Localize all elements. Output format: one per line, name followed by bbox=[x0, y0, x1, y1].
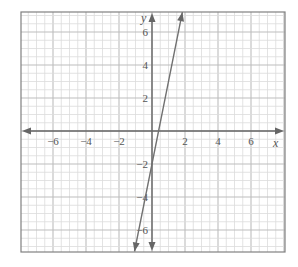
x-axis-arrow-right-icon bbox=[275, 128, 284, 135]
y-axis-label: y bbox=[140, 11, 147, 25]
series-line bbox=[135, 12, 183, 251]
y-tick-label: 6 bbox=[143, 26, 149, 38]
y-tick-label: 4 bbox=[143, 59, 149, 71]
y-tick-label: −2 bbox=[136, 158, 148, 170]
plot-frame bbox=[21, 12, 285, 252]
coordinate-plane: −6−4−2246−6−4−2246 x y bbox=[0, 0, 298, 267]
grid bbox=[21, 12, 285, 252]
x-axis-arrow-left-icon bbox=[22, 128, 31, 135]
y-tick-label: 2 bbox=[143, 92, 149, 104]
x-tick-label: 2 bbox=[182, 135, 188, 147]
x-tick-label: −4 bbox=[80, 135, 92, 147]
line-arrow-up-icon bbox=[177, 12, 184, 22]
y-axis-arrow-up-icon bbox=[149, 13, 156, 22]
x-axis-label: x bbox=[272, 136, 279, 150]
x-tick-label: 4 bbox=[215, 135, 221, 147]
x-tick-label: 6 bbox=[248, 135, 254, 147]
x-tick-label: −6 bbox=[47, 135, 59, 147]
x-tick-label: −2 bbox=[113, 135, 125, 147]
data-line bbox=[133, 12, 184, 251]
